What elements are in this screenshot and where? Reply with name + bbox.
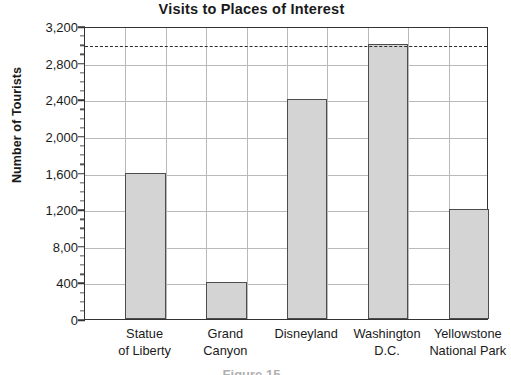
x-axis-category-label-line1: Yellowstone — [434, 326, 502, 341]
reference-line — [85, 46, 487, 47]
plot-inner — [85, 28, 487, 319]
x-axis-category-label-line1: Statue — [126, 326, 163, 341]
bar — [125, 173, 165, 320]
gridline-horizontal — [85, 65, 487, 66]
gridline-horizontal — [85, 138, 487, 139]
x-axis-category-labels: Statueof LibertyGrandCanyonDisneylandWas… — [84, 325, 488, 371]
y-axis-tick-label: 3,200 — [45, 20, 78, 35]
bar — [449, 209, 489, 319]
y-axis-tick-label: 400 — [56, 276, 78, 291]
bar — [368, 44, 408, 319]
y-axis-tick-label: 0 — [71, 313, 78, 328]
bar — [287, 99, 327, 319]
x-axis-category-label-line2: National Park — [413, 342, 511, 359]
y-axis-tick-label: 2,400 — [45, 93, 78, 108]
gridline-vertical — [206, 28, 207, 319]
x-axis-category-label: YellowstoneNational Park — [413, 325, 511, 359]
x-axis-category-label-line1: Washington — [353, 326, 420, 341]
x-axis-category-label-line1: Disneyland — [275, 326, 338, 341]
gridline-vertical — [247, 28, 248, 319]
figure-caption-clipped: Figure 15 — [0, 367, 503, 375]
plot-area — [84, 27, 488, 320]
y-axis-tick-label: 2,000 — [45, 129, 78, 144]
x-axis-category-label-line1: Grand — [208, 326, 244, 341]
bar — [206, 282, 246, 319]
gridline-horizontal — [85, 101, 487, 102]
y-axis-tick-label: 1,600 — [45, 166, 78, 181]
gridline-vertical — [408, 28, 409, 319]
gridline-vertical — [327, 28, 328, 319]
gridline-vertical — [166, 28, 167, 319]
y-axis-tick-label: 8,00 — [53, 239, 78, 254]
y-axis-tick-label: 1,200 — [45, 203, 78, 218]
x-axis-category-label-line2: Canyon — [170, 342, 280, 359]
y-axis-tick-labels: 04008,001,2001,6002,0002,4002,8003,200 — [0, 27, 78, 320]
chart-title: Visits to Places of Interest — [0, 1, 503, 17]
y-axis-tick-label: 2,800 — [45, 56, 78, 71]
